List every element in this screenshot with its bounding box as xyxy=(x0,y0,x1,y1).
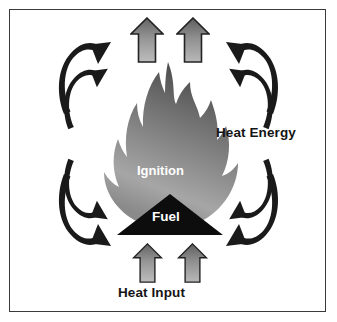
fuel-label: Fuel xyxy=(152,209,180,224)
heat-input-label: Heat Input xyxy=(118,285,185,300)
heat-output-arrow-group xyxy=(131,18,209,62)
up-arrow-icon xyxy=(134,244,162,282)
curved-arrow-icon xyxy=(64,69,108,129)
up-arrow-icon xyxy=(131,18,163,62)
up-arrow-icon xyxy=(177,18,209,62)
diagram-canvas: Ignition Fuel Heat Energy Heat Input xyxy=(0,0,337,322)
ignition-label: Ignition xyxy=(137,163,184,178)
up-arrow-icon xyxy=(179,244,207,282)
curved-arrow-group-lower-left xyxy=(59,159,111,246)
heat-input-arrow-group xyxy=(134,244,207,282)
curved-arrow-icon xyxy=(64,159,108,219)
curved-arrow-group-upper-left xyxy=(59,42,111,129)
curved-arrow-group-upper-right xyxy=(226,42,278,129)
heat-energy-label: Heat Energy xyxy=(216,125,296,140)
curved-arrow-icon xyxy=(229,69,273,129)
diagram-artwork xyxy=(0,0,337,322)
